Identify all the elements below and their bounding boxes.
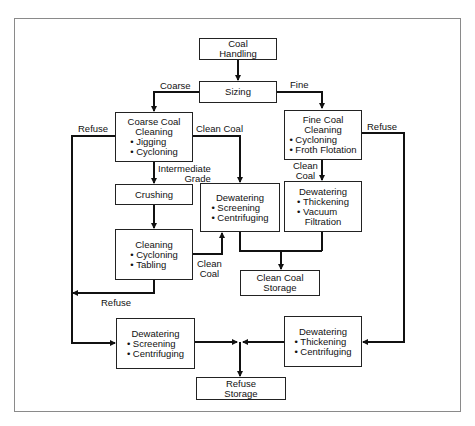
- dewatering-refuse-right-box: Dewatering Thickening Centrifuging: [284, 316, 362, 367]
- refuse-storage-box: Refuse Storage: [196, 377, 286, 400]
- method-list: Screening Centrifuging: [127, 339, 184, 359]
- crushing-box: Crushing: [115, 184, 193, 205]
- fine-coal-cleaning-box: Fine Coal Cleaning Cycloning Froth Flota…: [284, 110, 362, 160]
- node-title: Refuse: [226, 379, 256, 389]
- method-list: Cycloning Froth Flotation: [289, 135, 356, 155]
- method-list: Thickening Vacuum: [297, 197, 349, 217]
- node-title: Cleaning: [135, 240, 173, 250]
- node-title: Dewatering: [299, 327, 347, 337]
- method-item: Screening: [211, 203, 268, 213]
- cleaning-box: Cleaning Cycloning Tabling: [115, 229, 193, 280]
- label-line: Grade: [158, 174, 211, 184]
- label-refuse-right: Refuse: [367, 122, 397, 132]
- method-item: Screening: [127, 339, 184, 349]
- node-title: Storage: [263, 283, 296, 293]
- method-item: Thickening: [294, 337, 351, 347]
- coarse-coal-cleaning-box: Coarse Coal Cleaning Jigging Cycloning: [115, 112, 193, 162]
- method-item: Cycloning: [130, 250, 178, 260]
- node-title: Dewatering: [216, 193, 264, 203]
- method-list: Jigging Cycloning: [130, 137, 178, 157]
- label-intermediate-grade: Intermediate Grade: [158, 164, 211, 184]
- node-title: Dewatering: [131, 329, 179, 339]
- method-item: Tabling: [130, 260, 178, 270]
- method-item: Centrifuging: [294, 347, 351, 357]
- method-list: Screening Centrifuging: [211, 203, 268, 223]
- label-coarse: Coarse: [160, 81, 191, 91]
- dewatering-fine-box: Dewatering Thickening Vacuum Filtration: [284, 181, 362, 232]
- label-clean-coal-fine: Clean Coal: [293, 161, 318, 181]
- method-list: Cycloning Tabling: [130, 250, 178, 270]
- sizing-box: Sizing: [199, 81, 277, 103]
- node-title: Crushing: [135, 190, 173, 200]
- method-item: Thickening: [297, 197, 349, 207]
- node-title: Handling: [219, 49, 257, 59]
- label-refuse-left: Refuse: [78, 124, 108, 134]
- dewatering-mid-box: Dewatering Screening Centrifuging: [200, 183, 280, 232]
- label-fine: Fine: [290, 80, 308, 90]
- label-line: Coal: [197, 269, 222, 279]
- clean-coal-storage-box: Clean Coal Storage: [240, 270, 320, 296]
- node-title: Dewatering: [299, 187, 347, 197]
- label-refuse-bottom: Refuse: [101, 298, 131, 308]
- method-item: Centrifuging: [127, 349, 184, 359]
- method-list: Thickening Centrifuging: [294, 337, 351, 357]
- method-item: Centrifuging: [211, 213, 268, 223]
- method-item: Cycloning: [130, 147, 178, 157]
- coal-handling-box: Coal Handling: [199, 38, 277, 60]
- label-clean-coal-cleaning: Clean Coal: [197, 259, 222, 279]
- label-line: Coal: [293, 171, 318, 181]
- method-item: Froth Flotation: [289, 145, 356, 155]
- label-clean-coal-coarse: Clean Coal: [196, 124, 243, 134]
- method-item-continuation: Filtration: [305, 217, 341, 227]
- method-item: Vacuum: [297, 207, 349, 217]
- node-title: Sizing: [225, 87, 251, 97]
- node-title: Storage: [224, 389, 257, 399]
- dewatering-refuse-left-box: Dewatering Screening Centrifuging: [116, 318, 195, 369]
